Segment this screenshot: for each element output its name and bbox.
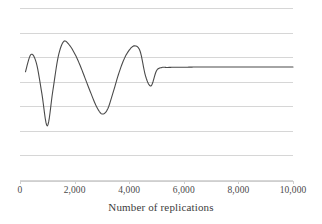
x-tick-label: 10,000: [280, 184, 307, 197]
x-axis-tick: [20, 181, 21, 184]
series-polyline: [25, 41, 293, 126]
x-axis-tick: [184, 181, 185, 184]
chart-figure: 02,0004,0006,0008,00010,000 Number of re…: [0, 0, 322, 224]
x-tick-label: 2,000: [64, 184, 86, 197]
x-axis-tick: [129, 181, 130, 184]
series-line-convergence: [20, 8, 293, 181]
x-axis-line: [20, 181, 293, 182]
x-tick-label: 6,000: [173, 184, 195, 197]
x-axis-tick: [238, 181, 239, 184]
x-axis-tick: [293, 181, 294, 184]
x-tick-label: 4,000: [118, 184, 140, 197]
x-axis-tick: [75, 181, 76, 184]
x-tick-label-group: 02,0004,0006,0008,00010,000: [0, 184, 322, 198]
plot-area: [20, 8, 293, 181]
x-axis-title: Number of replications: [0, 200, 322, 214]
x-tick-label: 0: [18, 184, 23, 197]
x-tick-label: 8,000: [227, 184, 249, 197]
